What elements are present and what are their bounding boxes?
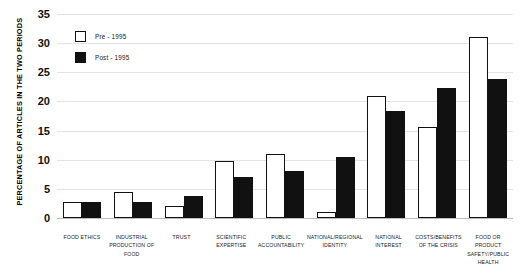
x-axis-label: NATIONAL INTEREST: [364, 233, 414, 267]
y-axis-title: PERCENTAGE OF ARTICLES IN THE TWO PERIOD…: [16, 4, 23, 220]
bar: [336, 157, 355, 218]
legend-swatch-filled-square-icon: [75, 52, 86, 63]
bar: [418, 127, 437, 219]
legend-label-post-1995: Post - 1995: [95, 54, 129, 61]
x-axis-label: TRUST: [157, 233, 207, 267]
y-axis-tick-0: 0: [24, 213, 50, 224]
x-axis-label: INDUSTRIAL PRODUCTION OF FOOD: [107, 233, 157, 267]
bar: [165, 206, 184, 218]
y-axis-tick-labels: 35302520151050: [24, 14, 50, 218]
y-axis-tick-15: 15: [24, 125, 50, 136]
bar: [285, 171, 304, 218]
bar: [488, 79, 507, 218]
x-axis-label: PUBLIC ACCOUNTABILITY: [256, 233, 306, 267]
bar: [266, 154, 285, 218]
y-axis-tick-30: 30: [24, 38, 50, 49]
x-axis-label: FOOD OR PRODUCT SAFETY/PUBLIC HEALTH: [463, 233, 513, 267]
bar: [114, 192, 133, 218]
bar: [234, 177, 253, 218]
legend-swatch-hollow-square-icon: [75, 31, 86, 42]
legend-item-post-1995: Post - 1995: [75, 49, 190, 66]
legend-label-pre-1995: Pre - 1995: [95, 33, 126, 40]
bar: [437, 88, 456, 218]
x-axis-label: NATIONAL/REGIONAL IDENTITY: [306, 233, 364, 267]
y-axis-tick-5: 5: [24, 183, 50, 194]
y-axis-tick-10: 10: [24, 154, 50, 165]
bar: [386, 111, 405, 218]
bar-group: [209, 14, 260, 218]
bar-group: [361, 14, 412, 218]
axis-baseline: [57, 218, 513, 219]
x-axis-label: COSTS/BENEFITS OF THE CRISIS: [413, 233, 463, 267]
bar-chart: PERCENTAGE OF ARTICLES IN THE TWO PERIOD…: [0, 0, 522, 276]
bar: [367, 96, 386, 218]
bar: [133, 202, 152, 218]
x-axis-label: FOOD ETHICS: [57, 233, 107, 267]
bar-group: [310, 14, 361, 218]
chart-legend: Pre - 1995 Post - 1995: [75, 28, 190, 70]
bar-group: [260, 14, 311, 218]
legend-item-pre-1995: Pre - 1995: [75, 28, 190, 45]
bar-group: [412, 14, 463, 218]
y-axis-tick-35: 35: [24, 9, 50, 20]
bar: [215, 161, 234, 218]
bar: [63, 202, 82, 218]
bar-group: [462, 14, 513, 218]
y-axis-tick-25: 25: [24, 67, 50, 78]
bar: [184, 196, 203, 218]
y-axis-tick-20: 20: [24, 96, 50, 107]
x-axis-category-labels: FOOD ETHICSINDUSTRIAL PRODUCTION OF FOOD…: [57, 233, 513, 267]
bar: [82, 202, 101, 218]
bar: [469, 37, 488, 218]
x-axis-label: SCIENTIFIC EXPERTISE: [206, 233, 256, 267]
bar: [317, 212, 336, 218]
